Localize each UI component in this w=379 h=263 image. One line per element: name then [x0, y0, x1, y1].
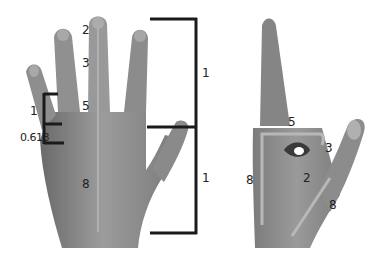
large-ratio-bracket [147, 18, 197, 234]
hand-proportion-diagram: 2 3 5 8 1 0.618 1 1 5 3 2 8 8 [0, 0, 379, 263]
right-label-8-right: 8 [329, 199, 337, 211]
right-label-5: 5 [288, 116, 296, 128]
diagram-graphics [0, 0, 379, 263]
large-bracket-lower-label: 1 [202, 172, 210, 184]
finger-label-5: 5 [82, 100, 90, 112]
right-hand [253, 19, 365, 249]
small-bracket-upper-label: 1 [30, 105, 38, 117]
right-label-2: 2 [303, 172, 311, 184]
palm-label-8: 8 [82, 178, 90, 190]
right-label-8-left: 8 [246, 174, 254, 186]
large-bracket-upper-label: 1 [202, 67, 210, 79]
finger-label-2: 2 [82, 24, 90, 36]
finger-label-3: 3 [82, 57, 90, 69]
left-hand [26, 17, 188, 249]
right-label-3: 3 [325, 142, 333, 154]
small-bracket-lower-label: 0.618 [20, 132, 49, 143]
